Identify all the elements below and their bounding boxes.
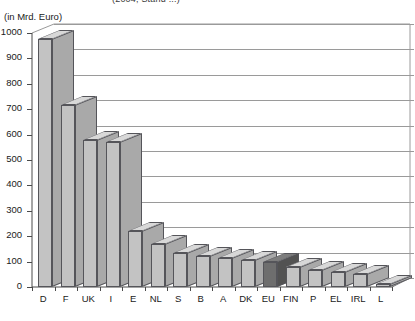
bar-front-face bbox=[218, 258, 232, 287]
x-tick-label-dk: DK bbox=[235, 293, 258, 304]
x-tick-label-a: A bbox=[212, 293, 235, 304]
x-tick-mark bbox=[100, 287, 101, 291]
x-tick-mark bbox=[235, 287, 236, 291]
x-tick-mark bbox=[347, 287, 348, 291]
x-tick-label-nl: NL bbox=[145, 293, 168, 304]
bar-front-face bbox=[128, 231, 142, 287]
x-tick-mark bbox=[280, 287, 281, 291]
bar-front-face bbox=[106, 142, 120, 287]
bar-front-face bbox=[286, 267, 300, 287]
x-tick-label-irl: IRL bbox=[347, 293, 370, 304]
x-tick-mark bbox=[212, 287, 213, 291]
x-tick-label-uk: UK bbox=[77, 293, 100, 304]
bar-front-face bbox=[331, 272, 345, 287]
x-tick-mark bbox=[392, 287, 393, 291]
bar-e bbox=[128, 22, 142, 287]
bar-uk bbox=[83, 22, 97, 287]
x-tick-mark bbox=[55, 287, 56, 291]
bar-front-face bbox=[173, 253, 187, 287]
bar-front-face bbox=[376, 284, 390, 287]
bar-dk bbox=[241, 22, 255, 287]
bar-b bbox=[196, 22, 210, 287]
bar-l bbox=[376, 22, 390, 287]
chart-root: (2004, Stand ...) (in Mrd. Euro) 0100200… bbox=[0, 0, 415, 321]
bar-i bbox=[106, 22, 120, 287]
x-tick-label-l: L bbox=[370, 293, 393, 304]
bar-front-face bbox=[61, 105, 75, 287]
x-tick-mark bbox=[370, 287, 371, 291]
plot-area: 01002003004005006007008009001000 DFUKIEN… bbox=[0, 22, 415, 307]
bar-front-face bbox=[263, 262, 277, 287]
bar-front-face bbox=[241, 260, 255, 287]
x-tick-label-f: F bbox=[55, 293, 78, 304]
bar-d bbox=[38, 22, 52, 287]
axis-unit-label: (in Mrd. Euro) bbox=[4, 11, 62, 22]
bar-nl bbox=[151, 22, 165, 287]
x-tick-label-el: EL bbox=[325, 293, 348, 304]
x-tick-label-fin: FIN bbox=[280, 293, 303, 304]
x-tick-mark bbox=[257, 287, 258, 291]
bar-el bbox=[331, 22, 345, 287]
x-tick-mark bbox=[122, 287, 123, 291]
bar-a bbox=[218, 22, 232, 287]
bar-front-face bbox=[38, 39, 52, 287]
x-tick-label-b: B bbox=[190, 293, 213, 304]
x-tick-mark bbox=[77, 287, 78, 291]
bar-fin bbox=[286, 22, 300, 287]
x-tick-mark bbox=[167, 287, 168, 291]
x-tick-mark bbox=[325, 287, 326, 291]
x-tick-label-d: D bbox=[32, 293, 55, 304]
bar-p bbox=[308, 22, 322, 287]
x-tick-mark bbox=[145, 287, 146, 291]
x-tick-label-e: E bbox=[122, 293, 145, 304]
bar-front-face bbox=[308, 270, 322, 287]
bar-irl bbox=[353, 22, 367, 287]
chart-title-fragment: (2004, Stand ...) bbox=[112, 0, 292, 4]
x-tick-label-eu: EU bbox=[257, 293, 280, 304]
bar-front-face bbox=[353, 274, 367, 287]
x-tick-label-i: I bbox=[100, 293, 123, 304]
bar-s bbox=[173, 22, 187, 287]
x-tick-mark bbox=[190, 287, 191, 291]
x-tick-label-s: S bbox=[167, 293, 190, 304]
bar-front-face bbox=[151, 244, 165, 287]
x-tick-mark bbox=[302, 287, 303, 291]
bar-eu bbox=[263, 22, 277, 287]
bar-front-face bbox=[196, 256, 210, 287]
x-tick-label-p: P bbox=[302, 293, 325, 304]
x-tick-mark bbox=[32, 287, 33, 291]
bar-front-face bbox=[83, 140, 97, 287]
bar-f bbox=[61, 22, 75, 287]
bars bbox=[0, 22, 415, 307]
